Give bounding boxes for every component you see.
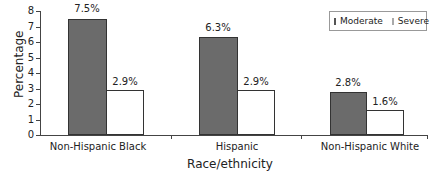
- category-label: Non-Hispanic White: [310, 141, 430, 152]
- y-tick-label: 6: [22, 37, 34, 47]
- y-tick: [36, 104, 40, 105]
- bar-value-label: 1.6%: [365, 96, 405, 107]
- y-tick-label: 5: [22, 53, 34, 63]
- bar-severe-non-hispanic-black: [106, 90, 144, 135]
- bar-value-label: 2.9%: [105, 76, 145, 87]
- bar-value-label: 2.9%: [236, 76, 276, 87]
- y-tick-label: 0: [22, 130, 34, 140]
- legend-swatch-moderate-icon: [334, 18, 336, 25]
- y-tick: [36, 58, 40, 59]
- bar-moderate-hispanic: [199, 37, 238, 135]
- y-tick-label: 1: [22, 115, 34, 125]
- bar-severe-non-hispanic-white: [366, 110, 404, 135]
- x-tick: [427, 135, 428, 139]
- y-tick: [36, 11, 40, 12]
- bar-moderate-non-hispanic-white: [330, 92, 367, 135]
- y-tick: [36, 135, 40, 136]
- legend-swatch-severe-icon: [392, 18, 394, 25]
- legend: Moderate Severe: [329, 11, 427, 31]
- x-tick: [301, 135, 302, 139]
- category-label: Hispanic: [187, 141, 287, 152]
- y-tick: [36, 73, 40, 74]
- bar-moderate-non-hispanic-black: [68, 19, 107, 135]
- bar-value-label: 6.3%: [198, 22, 238, 33]
- y-tick-label: 2: [22, 99, 34, 109]
- legend-label-moderate: Moderate: [340, 16, 383, 26]
- y-tick: [36, 27, 40, 28]
- y-tick: [36, 42, 40, 43]
- bar-value-label: 7.5%: [67, 3, 107, 14]
- y-tick-label: 7: [22, 22, 34, 32]
- bar-value-label: 2.8%: [328, 77, 368, 88]
- x-axis-line: [40, 135, 428, 136]
- y-tick-label: 4: [22, 68, 34, 78]
- y-tick: [36, 89, 40, 90]
- legend-label-severe: Severe: [398, 16, 429, 26]
- y-tick-label: 8: [22, 6, 34, 16]
- y-axis-line: [40, 11, 41, 136]
- category-label: Non-Hispanic Black: [38, 141, 158, 152]
- bar-severe-hispanic: [237, 90, 275, 135]
- y-tick-label: 3: [22, 84, 34, 94]
- x-tick: [171, 135, 172, 139]
- x-axis-title: Race/ethnicity: [160, 157, 300, 171]
- y-tick: [36, 120, 40, 121]
